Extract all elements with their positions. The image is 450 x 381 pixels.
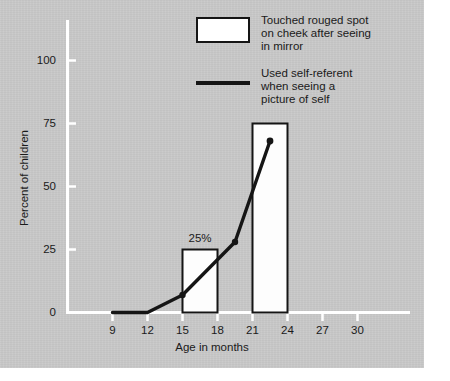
ytick-label-25: 25 <box>22 243 56 255</box>
ytick-label-100: 100 <box>22 54 56 66</box>
bar-series <box>183 124 288 313</box>
line-marker-22 <box>267 138 274 145</box>
xtick-label-27: 27 <box>308 324 338 336</box>
legend-entry-bar-label: Touched rouged spot on cheek after seein… <box>261 14 371 54</box>
line-marker-15 <box>179 292 185 298</box>
legend-entry-bar: Touched rouged spot on cheek after seein… <box>196 14 396 54</box>
xtick-label-12: 12 <box>133 324 163 336</box>
line-marker-19 <box>232 239 238 245</box>
self-referent-line <box>113 141 271 313</box>
x-axis-label: Age in months <box>0 341 424 353</box>
ytick-label-0: 0 <box>22 306 56 318</box>
xtick-label-9: 9 <box>98 324 128 336</box>
legend-bar-swatch-icon <box>196 17 250 43</box>
figure-panel: 100 75 50 25 0 9 12 15 18 21 24 27 30 Pe… <box>0 0 424 368</box>
line-series <box>113 138 274 313</box>
legend-entry-line: Used self-referent when seeing a picture… <box>196 67 396 107</box>
chart-legend: Touched rouged spot on cheek after seein… <box>196 14 396 119</box>
xtick-label-18: 18 <box>203 324 233 336</box>
y-axis-label: Percent of children <box>18 113 30 243</box>
bar-value-label-25-percent: 25% <box>178 232 222 244</box>
xtick-label-24: 24 <box>273 324 303 336</box>
legend-line-swatch-icon <box>196 70 250 96</box>
legend-entry-line-label: Used self-referent when seeing a picture… <box>261 67 352 107</box>
bar-15-18 <box>183 250 218 313</box>
bar-21-24 <box>253 124 288 313</box>
xtick-label-21: 21 <box>238 324 268 336</box>
xtick-label-30: 30 <box>343 324 373 336</box>
xtick-label-15: 15 <box>168 324 198 336</box>
